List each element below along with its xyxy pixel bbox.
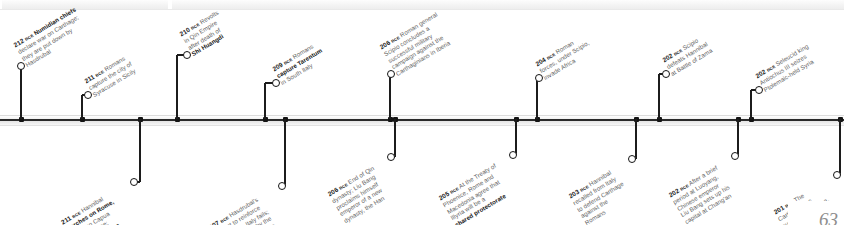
event-bullet-circle[interactable] (278, 182, 286, 190)
connector-stem-vertical (81, 95, 83, 119)
event-label-e-206-han-dynasty: 206 BCE End of Qindynasty; Liu Bangprocl… (326, 165, 391, 225)
connector-stem-vertical (515, 119, 517, 155)
page-top-edge-gap (168, 0, 172, 9)
event-bullet-circle[interactable] (509, 151, 517, 159)
page-top-edge (0, 0, 844, 10)
event-label-e-202-zama: 202 BCE Scipiodefeats Hannibalat Battle … (661, 33, 713, 77)
timeline-axis-line (0, 119, 844, 121)
connector-stem-vertical (658, 74, 660, 119)
event-label-e-209-tarentum: 209 BCE Romanscapture Tarentumin South I… (271, 39, 327, 86)
connector-stem-vertical (389, 74, 391, 119)
event-label-e-207-metaurus: 207 BCE Hasdrubal'sattempt to reinforceH… (208, 195, 282, 225)
connector-stem-vertical (536, 78, 538, 119)
event-bullet-circle[interactable] (628, 155, 636, 163)
event-bullet-circle[interactable] (387, 153, 395, 161)
event-label-e-202-changan: 202 BCE After a briefperiod at Luoyang,C… (667, 163, 734, 224)
connector-stem-vertical (139, 119, 141, 182)
event-bullet-circle[interactable] (130, 178, 138, 186)
event-label-e-203-defend-carthage: 203 BCE Hannibalrecalled from Italyto de… (567, 166, 632, 225)
event-label-e-211-marches-rome: 211 BCE Hannibalmarches on Rome,capturin… (60, 191, 135, 225)
event-label-e-206-scipio-iberia: 206 BCE Roman generalScipio concludes as… (378, 11, 454, 77)
timeline-page: 212 BCE Numidian chiefsdeclare war on Ca… (0, 0, 844, 225)
event-bullet-circle[interactable] (833, 171, 841, 179)
event-label-e-202-antiochus: 202 BCE Seleucid kingAntiochus III seize… (754, 42, 818, 93)
page-top-edge-gap-left (0, 0, 2, 9)
connector-stem-vertical (635, 119, 637, 159)
page-number-box: 63 (788, 201, 844, 225)
connector-stem-vertical (394, 119, 396, 157)
connector-stem-vertical (839, 119, 841, 175)
event-label-e-204-invade-africa: 204 BCE Romanforces, under Scipio,invade… (534, 32, 594, 81)
connector-stem-vertical (737, 119, 739, 156)
page-number: 63 (819, 209, 838, 225)
connector-stem-vertical (176, 55, 178, 119)
event-bullet-circle[interactable] (731, 152, 739, 160)
connector-stem-vertical (20, 66, 22, 119)
event-label-e-212-numidian: 212 BCE Numidian chiefsdeclare war on Ca… (12, 6, 89, 69)
event-label-e-205-phoenice: 205 BCE At the Treaty ofPhoenice, Rome a… (438, 162, 514, 225)
connector-stem-vertical (284, 119, 286, 186)
connector-stem-vertical (264, 83, 266, 119)
event-label-e-211-syracuse: 211 BCE Romanscapture the city ofSyracus… (83, 53, 137, 98)
connector-stem-vertical (750, 90, 752, 119)
